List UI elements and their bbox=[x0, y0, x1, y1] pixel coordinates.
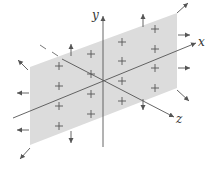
z-axis-hidden-segment bbox=[40, 45, 58, 56]
x-axis-label: x bbox=[198, 35, 205, 49]
z-axis-label: z bbox=[175, 112, 183, 126]
bottom-left-corner-arrow-icon bbox=[20, 148, 30, 159]
y-axis-label: y bbox=[91, 8, 99, 22]
top-right-corner-arrow-icon bbox=[177, 3, 188, 13]
bottom-right-corner-arrow-icon bbox=[177, 90, 189, 101]
top-left-corner-arrow-icon bbox=[18, 60, 28, 70]
charged-plane-diagram: y x z bbox=[0, 0, 215, 171]
